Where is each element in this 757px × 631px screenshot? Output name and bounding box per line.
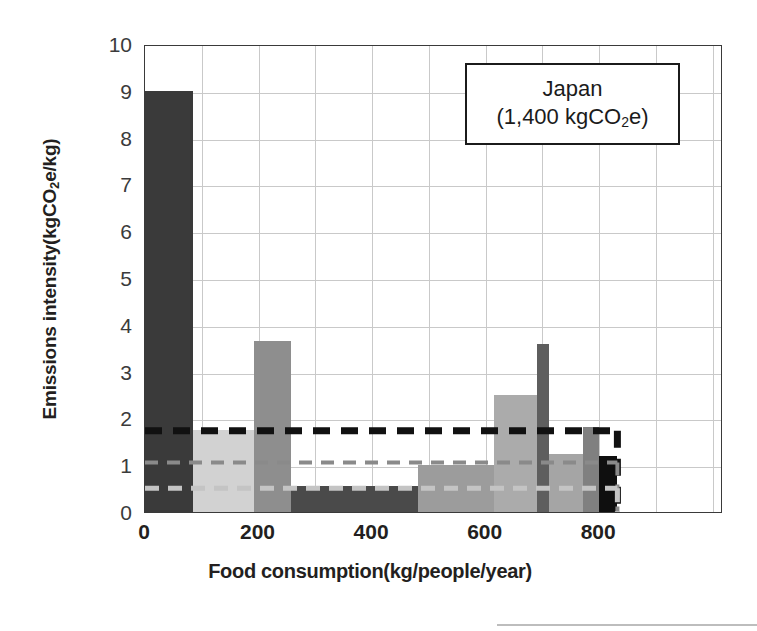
chart-figure: Emissions intensity(kgCO2e/kg) 109876543… (0, 0, 757, 631)
y-axis-title: Emissions intensity(kgCO2e/kg) (39, 59, 61, 499)
callout-total-suffix: e) (629, 104, 649, 129)
x-axis-title: Food consumption(kg/people/year) (60, 560, 680, 583)
y-tick-label: 1 (92, 455, 132, 476)
x-tick-label: 200 (223, 521, 293, 542)
y-tick-label: 10 (92, 34, 132, 55)
y-tick-label: 2 (92, 408, 132, 429)
y-axis-title-suffix: e/kg) (39, 138, 60, 181)
x-axis-tick-labels: 0200400600800 (0, 521, 757, 551)
callout-total-prefix: (1,400 kgCO (496, 104, 621, 129)
scan-edge-rule (497, 624, 757, 626)
y-tick-label: 8 (92, 128, 132, 149)
callout-total-subscript: 2 (621, 114, 629, 130)
y-tick-label: 0 (92, 502, 132, 523)
y-tick-label: 4 (92, 315, 132, 336)
x-tick-label: 400 (336, 521, 406, 542)
y-tick-label: 6 (92, 221, 132, 242)
x-tick-label: 600 (450, 521, 520, 542)
x-tick-label: 0 (109, 521, 179, 542)
y-tick-label: 7 (92, 174, 132, 195)
callout-total-emissions: (1,400 kgCO2e) (496, 104, 648, 132)
country-callout-box: Japan (1,400 kgCO2e) (465, 63, 680, 145)
callout-country-name: Japan (543, 76, 603, 102)
x-tick-label: 800 (563, 521, 633, 542)
y-tick-label: 5 (92, 268, 132, 289)
y-tick-label: 9 (92, 81, 132, 102)
y-axis-title-prefix: Emissions intensity(kgCO (39, 189, 60, 420)
y-axis-title-subscript: 2 (47, 182, 62, 189)
y-tick-label: 3 (92, 362, 132, 383)
